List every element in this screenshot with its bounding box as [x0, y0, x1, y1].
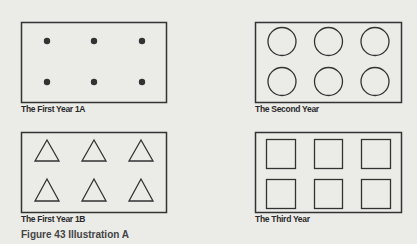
illustration-canvas — [0, 0, 417, 244]
dot-icon — [139, 38, 145, 44]
triangle-icon — [129, 140, 153, 161]
triangle-icon — [35, 140, 59, 161]
circle-icon — [315, 28, 343, 56]
panel-caption-first-year-1a: The First Year 1A — [21, 104, 85, 114]
dot-icon — [44, 38, 50, 44]
panel-frame — [22, 23, 167, 103]
panel-first-year-1a — [22, 23, 167, 103]
circle-icon — [268, 28, 296, 56]
triangle-icon — [82, 179, 106, 201]
triangle-icon-group — [35, 140, 153, 201]
panel-caption-second-year: The Second Year — [255, 104, 319, 114]
circle-icon — [268, 68, 296, 96]
panel-second-year — [256, 23, 402, 103]
panel-caption-first-year-1b: The First Year 1B — [21, 214, 85, 224]
dot-icon — [91, 79, 97, 85]
square-icon — [315, 180, 343, 209]
square-icon — [362, 180, 391, 209]
circle-icon-group — [268, 28, 389, 96]
dot-icon — [44, 79, 50, 85]
panel-third-year — [256, 133, 402, 213]
triangle-icon — [129, 179, 153, 201]
figure-caption: Figure 43 Illustration A — [21, 229, 129, 240]
dot-icon — [139, 79, 145, 85]
dot-icon — [91, 38, 97, 44]
panel-frame — [256, 23, 402, 103]
square-icon — [315, 140, 343, 169]
triangle-icon — [82, 140, 106, 161]
circle-icon — [361, 68, 389, 96]
square-icon — [362, 140, 391, 169]
square-icon-group — [267, 140, 391, 209]
circle-icon — [315, 68, 343, 96]
triangle-icon — [35, 179, 59, 201]
circle-icon — [361, 28, 389, 56]
panel-caption-third-year: The Third Year — [255, 214, 310, 224]
panel-first-year-1b — [22, 133, 167, 213]
panel-frame — [256, 133, 402, 213]
square-icon — [267, 140, 296, 169]
square-icon — [267, 180, 296, 209]
dot-icon-group — [44, 38, 145, 85]
